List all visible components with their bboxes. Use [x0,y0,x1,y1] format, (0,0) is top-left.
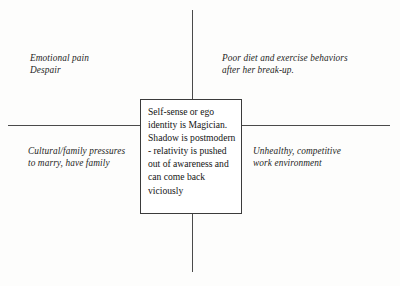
quadrant-label-bottom-left: Cultural/family pressures to marry, have… [28,145,140,170]
vertical-axis-bottom-segment [192,214,193,272]
horizontal-axis-left-segment [8,125,141,126]
quadrant-label-top-right: Poor diet and exercise behaviors after h… [222,52,398,77]
quadrant-label-top-left: Emotional pain Despair [30,52,140,77]
vertical-axis-top-segment [192,10,193,99]
quadrant-diagram-canvas: Emotional pain Despair Poor diet and exe… [0,0,400,286]
center-text-box-label: Self-sense or ego identity is Magician. … [148,105,240,197]
center-text-box: Self-sense or ego identity is Magician. … [140,99,242,214]
horizontal-axis-right-segment [242,125,390,126]
quadrant-label-bottom-right: Unhealthy, competitive work environment [253,145,393,170]
